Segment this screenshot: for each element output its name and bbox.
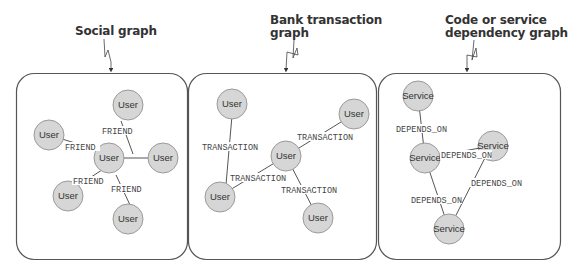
bank-nodes: User User User User User xyxy=(205,89,369,233)
dependency-pointer-arrow xyxy=(467,40,477,70)
svg-text:Service: Service xyxy=(433,223,465,234)
dependency-node-middle[interactable]: Service xyxy=(409,143,441,173)
svg-text:User: User xyxy=(210,191,230,202)
svg-text:Service: Service xyxy=(477,140,509,151)
svg-text:User: User xyxy=(118,99,138,110)
svg-text:TRANSACTION: TRANSACTION xyxy=(230,174,286,184)
social-node-top[interactable]: User xyxy=(113,90,143,120)
bank-node-bottom-right[interactable]: User xyxy=(303,203,333,233)
social-node-right[interactable]: User xyxy=(148,143,178,173)
svg-text:DEPENDS_ON: DEPENDS_ON xyxy=(396,125,447,135)
bank-node-top-right[interactable]: User xyxy=(339,99,369,129)
dependency-node-top[interactable]: Service xyxy=(402,81,434,111)
svg-text:User: User xyxy=(118,213,138,224)
svg-text:User: User xyxy=(58,190,78,201)
svg-text:User: User xyxy=(99,152,119,163)
dependency-node-bottom[interactable]: Service xyxy=(433,214,465,244)
svg-text:User: User xyxy=(344,108,364,119)
bank-pointer-arrow xyxy=(286,40,298,70)
social-node-left[interactable]: User xyxy=(34,120,64,150)
svg-text:DEPENDS_ON: DEPENDS_ON xyxy=(471,179,522,189)
dependency-nodes: Service Service Service Service xyxy=(402,81,509,244)
svg-text:Service: Service xyxy=(409,152,441,163)
social-pointer-arrow xyxy=(104,39,111,70)
svg-text:FRIEND: FRIEND xyxy=(102,127,133,137)
svg-text:User: User xyxy=(39,129,59,140)
social-node-bottom-right[interactable]: User xyxy=(113,204,143,234)
svg-text:DEPENDS_ON: DEPENDS_ON xyxy=(411,196,462,206)
social-nodes: User User User User User User xyxy=(34,90,178,234)
bank-node-top-left[interactable]: User xyxy=(217,89,247,119)
bank-node-center[interactable]: User xyxy=(271,141,301,171)
svg-text:Service: Service xyxy=(402,90,434,101)
svg-text:FRIEND: FRIEND xyxy=(65,143,96,153)
svg-text:User: User xyxy=(308,212,328,223)
svg-text:TRANSACTION: TRANSACTION xyxy=(281,186,337,196)
svg-text:FRIEND: FRIEND xyxy=(111,185,142,195)
svg-text:DEPENDS_ON: DEPENDS_ON xyxy=(441,151,492,161)
svg-text:FRIEND: FRIEND xyxy=(73,177,104,187)
bank-node-bottom-left[interactable]: User xyxy=(205,182,235,212)
svg-text:User: User xyxy=(276,150,296,161)
svg-text:TRANSACTION: TRANSACTION xyxy=(297,133,353,143)
graph-diagrams: User User User User User User FRIEND FRI… xyxy=(0,0,578,264)
svg-text:User: User xyxy=(153,152,173,163)
svg-text:TRANSACTION: TRANSACTION xyxy=(202,143,258,153)
svg-text:User: User xyxy=(222,98,242,109)
